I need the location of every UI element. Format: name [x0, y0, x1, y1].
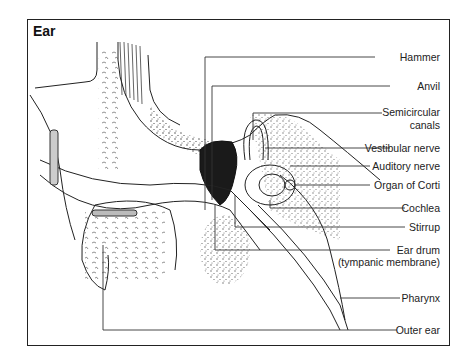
label-vestibular-nerve: Vestibular nerve: [360, 142, 440, 155]
label-outer-ear: Outer ear: [385, 324, 440, 337]
label-semicircular-canals: Semicircular: [380, 106, 440, 119]
label-organ-of-corti: Organ of Corti: [360, 179, 440, 192]
label-semicircular-canals-line2: canals: [380, 119, 440, 132]
label-auditory-nerve: Auditory nerve: [365, 160, 440, 173]
label-pharynx: Pharynx: [395, 292, 440, 305]
label-anvil: Anvil: [395, 80, 440, 93]
label-cochlea: Cochlea: [395, 202, 440, 215]
label-tympanic-membrane: (tympanic membrane): [330, 256, 440, 269]
label-hammer: Hammer: [378, 51, 440, 64]
label-stirrup: Stirrup: [395, 221, 440, 234]
